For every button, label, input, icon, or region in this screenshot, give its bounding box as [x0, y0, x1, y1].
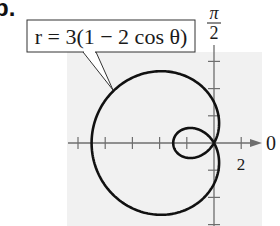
half-pi-label: π 2	[207, 3, 221, 43]
problem-number: b.	[0, 0, 15, 22]
half-pi-numerator: π	[209, 3, 219, 23]
zero-angle-label: 0	[266, 132, 276, 154]
plot-area-background	[67, 52, 262, 226]
polar-plot: r = 3(1 − 2 cos θ) π 2 0 2	[0, 0, 280, 226]
polar-graph-figure: b. r = 3(1 − 2 cos θ) π 2 0 2	[0, 0, 280, 226]
half-pi-denominator: 2	[210, 23, 219, 43]
tick-label-2: 2	[237, 155, 246, 174]
equation-label: r = 3(1 − 2 cos θ)	[35, 24, 188, 49]
